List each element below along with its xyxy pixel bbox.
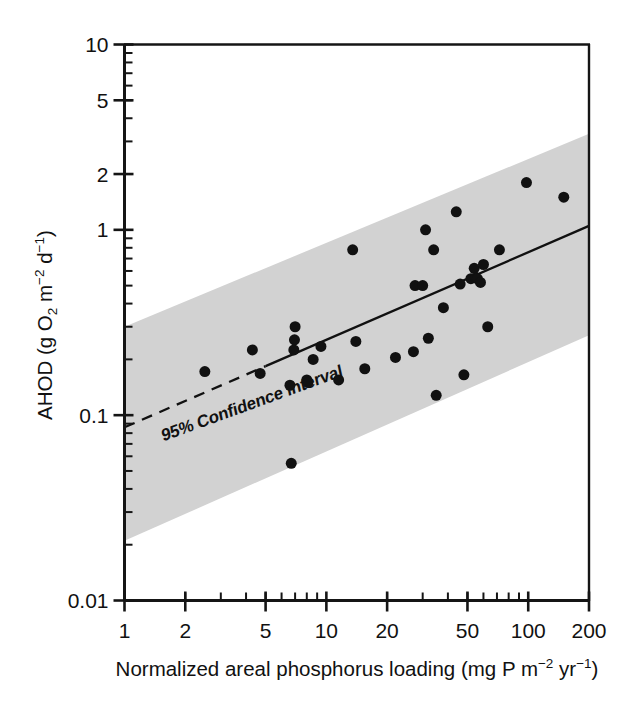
x-axis-tick-labels: 125102050100200: [119, 619, 607, 642]
y-axis-title: AHOD (g O2 m−2 d−1): [32, 230, 60, 420]
x-axis-title-sup-minus2: −2: [538, 656, 553, 671]
scatter-plot-svg: 0.010.112510 125102050100200 95% Confide…: [0, 0, 635, 702]
y-axis-tick-labels: 0.010.112510: [68, 33, 109, 612]
x-axis-title-tail: ): [592, 657, 599, 680]
data-point: [417, 280, 428, 291]
data-point: [521, 177, 532, 188]
data-point: [438, 302, 449, 313]
data-point: [286, 458, 297, 469]
y-axis-tick-label: 0.01: [68, 589, 109, 612]
data-point: [247, 344, 258, 355]
x-axis-title-mid: yr: [553, 657, 576, 680]
y-axis-title-mid: m: [33, 285, 56, 308]
x-axis-tick-label: 10: [315, 619, 338, 642]
x-axis-tick-label: 50: [456, 619, 479, 642]
y-axis-tick-label: 1: [97, 218, 109, 241]
y-axis-title-sup-minus1: −1: [32, 237, 47, 252]
x-axis-title-sup-minus1: −1: [576, 656, 591, 671]
data-point: [308, 354, 319, 365]
data-point: [315, 341, 326, 352]
y-axis-tick-label: 10: [85, 33, 108, 56]
data-point: [408, 346, 419, 357]
data-point: [558, 192, 569, 203]
data-point: [288, 344, 299, 355]
data-point: [475, 277, 486, 288]
figure-container: 0.010.112510 125102050100200 95% Confide…: [0, 0, 635, 702]
data-point: [423, 333, 434, 344]
data-point: [458, 369, 469, 380]
data-point: [390, 352, 401, 363]
y-axis-title-lead: AHOD (g O: [33, 315, 56, 420]
x-axis-title-group: Normalized areal phosphorus loading (mg …: [116, 656, 599, 680]
x-axis-title-main: Normalized areal phosphorus loading (mg …: [116, 657, 538, 680]
y-axis-title-group: AHOD (g O2 m−2 d−1): [32, 230, 60, 420]
data-point: [289, 334, 300, 345]
data-point: [199, 366, 210, 377]
x-axis-title: Normalized areal phosphorus loading (mg …: [116, 656, 599, 680]
data-point: [478, 259, 489, 270]
y-axis-title-sub-2: 2: [45, 308, 60, 316]
data-point: [482, 321, 493, 332]
data-point: [428, 244, 439, 255]
data-point: [255, 368, 266, 379]
y-axis-tick-label: 2: [97, 163, 109, 186]
y-axis-title-sup-minus2: −2: [32, 270, 47, 285]
y-axis-tick-label: 5: [97, 89, 109, 112]
x-axis-tick-label: 2: [179, 619, 191, 642]
data-point: [347, 244, 358, 255]
x-axis-tick-label: 20: [375, 619, 398, 642]
x-axis-tick-label: 200: [571, 619, 606, 642]
data-point: [290, 321, 301, 332]
x-axis-tick-label: 100: [511, 619, 546, 642]
data-point: [451, 206, 462, 217]
data-point: [359, 363, 370, 374]
data-point: [420, 224, 431, 235]
x-axis-tick-label: 5: [260, 619, 272, 642]
data-point: [350, 336, 361, 347]
data-point: [431, 390, 442, 401]
y-axis-tick-label: 0.1: [79, 404, 108, 427]
x-axis-tick-label: 1: [119, 619, 131, 642]
y-axis-title-mid2: d: [33, 252, 56, 269]
data-point: [455, 279, 466, 290]
data-point: [494, 244, 505, 255]
y-axis-title-tail: ): [33, 230, 56, 237]
